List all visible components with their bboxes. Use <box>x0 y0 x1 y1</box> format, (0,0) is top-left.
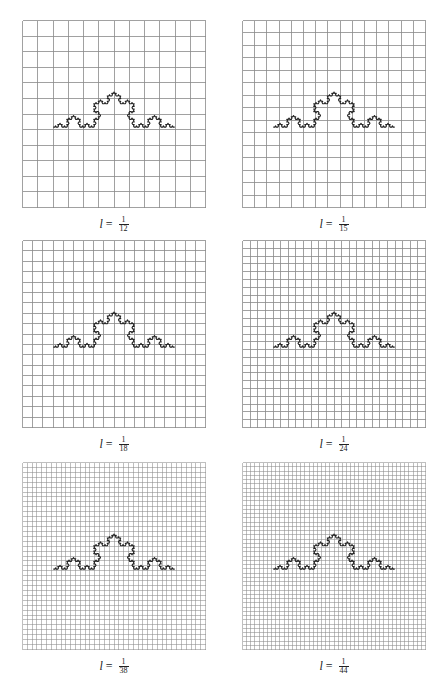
caption-equals: = <box>106 659 113 673</box>
caption-fraction: 1 38 <box>119 658 129 676</box>
panel-caption: l = 1 38 <box>22 658 206 676</box>
panel-caption: l = 1 24 <box>242 436 426 454</box>
grid-with-koch-curve <box>242 462 426 650</box>
grid-lines <box>243 463 426 650</box>
caption-variable: l <box>319 437 322 451</box>
grid-with-koch-curve <box>22 462 206 650</box>
caption-equals: = <box>326 437 333 451</box>
caption-variable: l <box>99 437 102 451</box>
caption-variable: l <box>319 659 322 673</box>
grid-with-koch-curve <box>22 240 206 428</box>
panel-caption: l = 1 12 <box>22 216 206 234</box>
panel-l-1-15: l = 1 15 <box>242 20 426 208</box>
grid-with-koch-curve <box>242 240 426 428</box>
caption-variable: l <box>99 217 102 231</box>
grid-lines <box>243 21 426 208</box>
grid-lines <box>23 21 206 208</box>
grid-lines <box>23 463 206 650</box>
panel-l-1-38: l = 1 38 <box>22 462 206 650</box>
panel-caption: l = 1 18 <box>22 436 206 454</box>
caption-equals: = <box>326 659 333 673</box>
caption-fraction: 1 15 <box>339 216 349 234</box>
fraction-denominator: 44 <box>339 667 349 675</box>
grid-with-koch-curve <box>22 20 206 208</box>
caption-fraction: 1 12 <box>119 216 129 234</box>
caption-equals: = <box>326 217 333 231</box>
fraction-denominator: 24 <box>339 445 349 453</box>
panel-caption: l = 1 15 <box>242 216 426 234</box>
caption-equals: = <box>106 217 113 231</box>
panel-caption: l = 1 44 <box>242 658 426 676</box>
caption-equals: = <box>106 437 113 451</box>
grid-with-koch-curve <box>242 20 426 208</box>
panel-l-1-12: l = 1 12 <box>22 20 206 208</box>
caption-fraction: 1 44 <box>339 658 349 676</box>
fraction-denominator: 12 <box>119 225 129 233</box>
caption-fraction: 1 24 <box>339 436 349 454</box>
caption-variable: l <box>99 659 102 673</box>
fraction-denominator: 15 <box>339 225 349 233</box>
grid-lines <box>243 241 426 428</box>
caption-variable: l <box>319 217 322 231</box>
fraction-denominator: 38 <box>119 667 129 675</box>
panel-l-1-18: l = 1 18 <box>22 240 206 428</box>
panel-l-1-24: l = 1 24 <box>242 240 426 428</box>
panel-l-1-44: l = 1 44 <box>242 462 426 650</box>
grid-lines <box>23 241 206 428</box>
fraction-denominator: 18 <box>119 445 129 453</box>
caption-fraction: 1 18 <box>119 436 129 454</box>
